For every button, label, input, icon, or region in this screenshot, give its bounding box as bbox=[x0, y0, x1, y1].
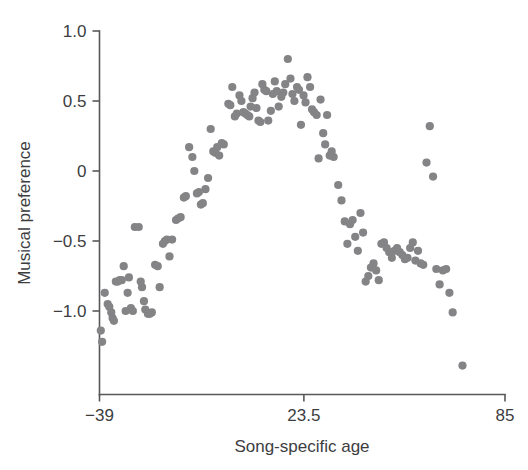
data-point bbox=[284, 55, 292, 63]
data-point bbox=[250, 89, 258, 97]
data-point bbox=[445, 289, 453, 297]
data-point bbox=[138, 283, 146, 291]
data-point bbox=[226, 101, 234, 109]
data-point bbox=[125, 273, 133, 281]
data-point bbox=[101, 289, 109, 297]
data-point bbox=[364, 272, 372, 280]
data-point bbox=[301, 98, 309, 106]
data-point bbox=[177, 213, 185, 221]
data-point bbox=[290, 97, 298, 105]
data-point bbox=[429, 173, 437, 181]
data-point bbox=[120, 262, 128, 270]
y-tick-label: −1.0 bbox=[53, 302, 87, 321]
chart-canvas: 1.00.50−0.5−1.0 −3923.585 Song-specific … bbox=[0, 0, 528, 470]
data-point bbox=[124, 289, 132, 297]
data-point bbox=[190, 167, 198, 175]
data-point bbox=[351, 233, 359, 241]
data-point bbox=[252, 104, 260, 112]
data-point bbox=[168, 236, 176, 244]
data-point bbox=[279, 89, 287, 97]
data-point bbox=[199, 199, 207, 207]
y-tick-label: 0.5 bbox=[63, 92, 87, 111]
data-point bbox=[313, 111, 321, 119]
data-points-layer bbox=[97, 55, 467, 370]
y-tick-label: −0.5 bbox=[53, 232, 87, 251]
scatter-plot-figure: 1.00.50−0.5−1.0 −3923.585 Song-specific … bbox=[0, 0, 528, 470]
data-point bbox=[215, 152, 223, 160]
data-point bbox=[403, 254, 411, 262]
x-tick-label: 85 bbox=[496, 406, 515, 425]
data-point bbox=[315, 154, 323, 162]
data-point bbox=[97, 327, 105, 335]
data-point bbox=[256, 118, 264, 126]
data-point bbox=[356, 209, 364, 217]
data-point bbox=[185, 143, 193, 151]
data-point bbox=[442, 265, 450, 273]
data-point bbox=[330, 153, 338, 161]
data-point bbox=[182, 192, 190, 200]
data-point bbox=[436, 280, 444, 288]
data-point bbox=[118, 276, 126, 284]
data-point bbox=[237, 97, 245, 105]
y-tick-label: 1.0 bbox=[63, 22, 87, 41]
data-point bbox=[375, 276, 383, 284]
data-point bbox=[388, 254, 396, 262]
data-point bbox=[372, 266, 380, 274]
data-point bbox=[306, 83, 314, 91]
data-point bbox=[303, 73, 311, 81]
data-point bbox=[458, 362, 466, 370]
data-point bbox=[220, 140, 228, 148]
x-axis-title: Song-specific age bbox=[234, 437, 369, 456]
data-point bbox=[334, 181, 342, 189]
y-axis-tick-labels: 1.00.50−0.5−1.0 bbox=[53, 22, 87, 321]
data-point bbox=[201, 185, 209, 193]
data-point bbox=[154, 262, 162, 270]
data-point bbox=[316, 96, 324, 104]
data-point bbox=[354, 247, 362, 255]
y-axis-ticks bbox=[93, 31, 100, 311]
data-point bbox=[207, 125, 215, 133]
data-point bbox=[110, 317, 118, 325]
data-point bbox=[422, 159, 430, 167]
data-point bbox=[426, 122, 434, 130]
data-point bbox=[264, 117, 272, 125]
data-point bbox=[188, 153, 196, 161]
data-point bbox=[267, 107, 275, 115]
data-point bbox=[228, 83, 236, 91]
data-point bbox=[359, 229, 367, 237]
data-point bbox=[98, 338, 106, 346]
x-axis-tick-labels: −3923.585 bbox=[85, 406, 514, 425]
data-point bbox=[297, 121, 305, 129]
data-point bbox=[245, 112, 253, 120]
data-point bbox=[204, 174, 212, 182]
data-point bbox=[140, 297, 148, 305]
data-point bbox=[148, 308, 156, 316]
data-point bbox=[286, 75, 294, 83]
data-point bbox=[165, 252, 173, 260]
data-point bbox=[299, 91, 307, 99]
y-axis-title: Musical preference bbox=[15, 141, 34, 285]
data-point bbox=[323, 111, 331, 119]
data-point bbox=[156, 283, 164, 291]
data-point bbox=[369, 259, 377, 267]
data-point bbox=[337, 196, 345, 204]
x-axis-ticks bbox=[100, 395, 506, 402]
x-tick-label: 23.5 bbox=[287, 406, 320, 425]
y-tick-label: 0 bbox=[77, 162, 86, 181]
data-point bbox=[135, 223, 143, 231]
data-point bbox=[414, 247, 422, 255]
data-point bbox=[449, 308, 457, 316]
data-point bbox=[275, 103, 283, 111]
data-point bbox=[319, 129, 327, 137]
x-tick-label: −39 bbox=[85, 406, 114, 425]
data-point bbox=[129, 307, 137, 315]
data-point bbox=[271, 77, 279, 85]
data-point bbox=[321, 140, 329, 148]
data-point bbox=[409, 238, 417, 246]
data-point bbox=[343, 240, 351, 248]
data-point bbox=[419, 261, 427, 269]
data-point bbox=[349, 216, 357, 224]
